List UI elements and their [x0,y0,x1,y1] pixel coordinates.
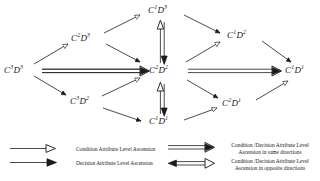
legend-arrow-condition [10,145,56,153]
legend-label-opposite-directions: Condition /Decision Attribute Level Asce… [222,158,318,172]
legend-arrow-opposite-directions [168,158,214,168]
legend-label-opposite-line2: Ascension in opposite directions [222,165,318,172]
diagram-canvas: C3D3 C2D3 C3D2 C1D3 C2D2 C1D1 C1D2 C2D1 … [0,0,320,181]
legend-arrow-decision [10,159,57,166]
legend-label-same-line1: Condition /Decision Attribute Level [222,142,318,149]
legend-label-condition: Condition Attribute Level Ascension [76,146,155,153]
legend-label-same-directions: Condition /Decision Attribute Level Asce… [222,142,318,156]
legend-label-opposite-line1: Condition /Decision Attribute Level [222,158,318,165]
legend-arrow-same-directions [168,142,215,152]
legend-label-same-line2: Ascension in same directions [222,149,318,156]
legend-label-decision: Decision Attribute Level Ascension [76,160,153,167]
